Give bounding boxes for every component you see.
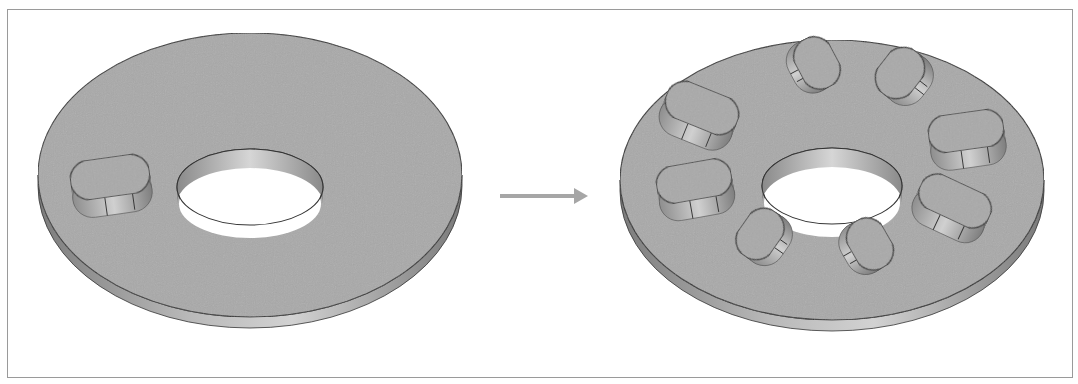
transform-arrow-icon xyxy=(500,188,588,204)
original-part xyxy=(38,33,462,328)
arrow-head-icon xyxy=(574,188,588,204)
patterned-part xyxy=(620,30,1044,331)
original-part-hole-opening xyxy=(179,170,321,238)
figure-canvas xyxy=(0,0,1078,384)
patterned-part-boss-3 xyxy=(926,107,1009,173)
original-part-boss-0 xyxy=(68,152,155,220)
